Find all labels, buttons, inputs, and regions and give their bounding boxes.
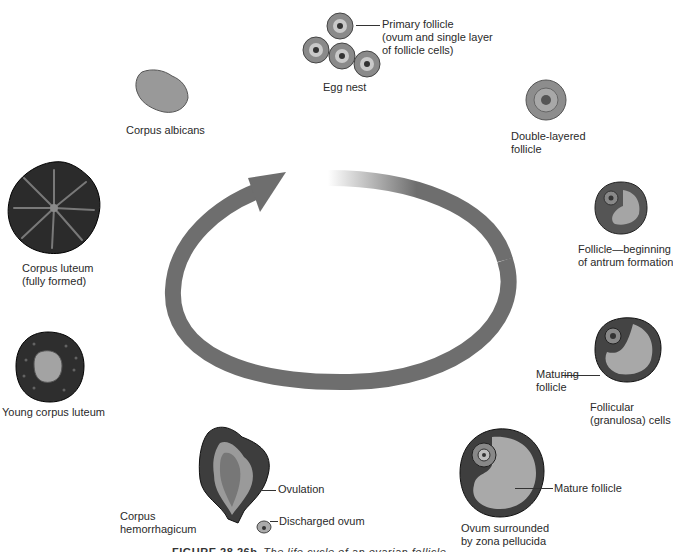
corpus-albicans-label: Corpus albicans xyxy=(126,124,205,137)
young-corpus-luteum-label: Young corpus luteum xyxy=(2,406,105,419)
maturing-follicle-label: Maturing xyxy=(536,368,579,381)
corpus-luteum-illustration xyxy=(6,160,102,256)
double-layered-follicle-illustration xyxy=(524,78,568,122)
figure-caption: FIGURE 28.26bThe life cycle of an ovaria… xyxy=(172,546,446,557)
corpus-hemorrhagicum-label: hemorrhagicum xyxy=(120,523,196,536)
corpus-hemorrhagicum-illustration xyxy=(198,423,278,535)
primary-follicle-label: Primary follicle xyxy=(382,18,454,31)
antrum-follicle-label: Follicle—beginning xyxy=(578,243,671,256)
primary-follicle-sublabel: of follicle cells) xyxy=(382,44,454,57)
double-layered-label: follicle xyxy=(511,143,542,156)
discharged-ovum-leader xyxy=(270,521,278,522)
egg-nest-label: Egg nest xyxy=(323,81,366,94)
maturing-follicle-label: follicle xyxy=(536,381,567,394)
cycle-arrow xyxy=(160,160,540,400)
antrum-follicle-label: of antrum formation xyxy=(578,256,673,269)
antrum-follicle-illustration xyxy=(593,180,649,236)
double-layered-label: Double-layered xyxy=(511,130,586,143)
corpus-albicans-illustration xyxy=(134,68,190,116)
corpus-luteum-label: (fully formed) xyxy=(22,275,86,288)
primary-follicle-leader xyxy=(356,25,380,26)
discharged-ovum-label: Discharged ovum xyxy=(279,515,365,528)
zona-pellucida-label: Ovum surrounded xyxy=(461,522,549,535)
zona-pellucida-label: by zona pellucida xyxy=(461,535,546,548)
maturing-follicle-illustration xyxy=(593,316,663,384)
mature-follicle-illustration xyxy=(458,427,548,519)
granulosa-cells-label: Follicular xyxy=(590,401,634,414)
young-corpus-luteum-illustration xyxy=(14,330,86,404)
figure-number: FIGURE 28.26b xyxy=(172,546,257,557)
corpus-hemorrhagicum-label: Corpus xyxy=(120,510,155,523)
mature-follicle-leader xyxy=(515,488,553,489)
egg-nest-illustration xyxy=(302,12,382,82)
primary-follicle-sublabel: (ovum and single layer xyxy=(382,31,493,44)
granulosa-cells-label: (granulosa) cells xyxy=(590,414,671,427)
mature-follicle-label: Mature follicle xyxy=(554,482,622,495)
corpus-luteum-label: Corpus luteum xyxy=(22,262,94,275)
ovulation-label: Ovulation xyxy=(262,483,324,496)
cycle-arrow-icon xyxy=(160,160,540,400)
caption-text: The life cycle of an ovarian follicle xyxy=(263,546,446,557)
